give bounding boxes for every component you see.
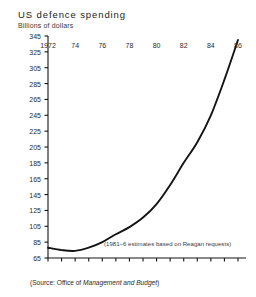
x-tick-label: 80 bbox=[153, 42, 161, 49]
y-tick-label: 205 bbox=[15, 144, 41, 151]
source-note: (Source: Office of Management and Budget… bbox=[30, 279, 159, 286]
axes bbox=[45, 36, 247, 262]
y-tick-label: 325 bbox=[15, 48, 41, 55]
x-tick-label: 86 bbox=[234, 42, 242, 49]
x-tick-label: 84 bbox=[207, 42, 215, 49]
chart-annotation: (1981–6 estimates based on Reagan reques… bbox=[104, 241, 231, 247]
y-tick-label: 285 bbox=[15, 80, 41, 87]
source-prefix: (Source: Office of bbox=[30, 279, 83, 286]
chart-subtitle: Billions of dollars bbox=[18, 22, 73, 29]
x-tick-label: 82 bbox=[180, 42, 188, 49]
x-tick-label: 76 bbox=[98, 42, 106, 49]
source-italic: Management and Budget bbox=[83, 279, 157, 286]
y-tick-label: 85 bbox=[15, 239, 41, 246]
y-tick-label: 185 bbox=[15, 159, 41, 166]
x-tick-label: 1972 bbox=[40, 42, 56, 49]
source-suffix: ) bbox=[157, 279, 159, 286]
y-tick-label: 345 bbox=[15, 33, 41, 40]
y-tick-label: 65 bbox=[15, 255, 41, 262]
y-tick-label: 265 bbox=[15, 96, 41, 103]
chart-title: US defence spending bbox=[18, 9, 126, 20]
y-tick-label: 305 bbox=[15, 64, 41, 71]
x-tick-label: 74 bbox=[71, 42, 79, 49]
chart-svg bbox=[48, 36, 238, 258]
y-tick-label: 165 bbox=[15, 175, 41, 182]
y-tick-label: 145 bbox=[15, 191, 41, 198]
y-tick-label: 225 bbox=[15, 128, 41, 135]
plot-area: 6585105125145165185205225245265285305325… bbox=[48, 36, 238, 258]
y-tick-label: 245 bbox=[15, 112, 41, 119]
x-tick-label: 78 bbox=[126, 42, 134, 49]
y-tick-label: 125 bbox=[15, 207, 41, 214]
y-tick-label: 105 bbox=[15, 223, 41, 230]
chart-container: US defence spending Billions of dollars … bbox=[0, 0, 256, 297]
data-series-line bbox=[48, 40, 238, 251]
